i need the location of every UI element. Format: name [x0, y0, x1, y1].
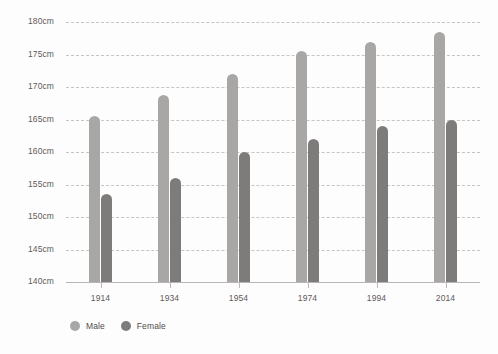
- bar-female-1954[interactable]: [239, 152, 250, 282]
- x-axis-tick-label: 1914: [91, 293, 110, 303]
- y-axis-tick-label: 140cm: [28, 276, 54, 286]
- y-axis-tick-label: 180cm: [28, 16, 54, 26]
- x-axis-tick-label: 2014: [436, 293, 455, 303]
- legend-circle-icon: [70, 321, 80, 331]
- bar-male-1934[interactable]: [158, 95, 169, 282]
- y-axis-tick-label: 165cm: [28, 114, 54, 124]
- plot-area: 180cm175cm170cm165cm160cm155cm150cm145cm…: [66, 22, 480, 282]
- x-axis-tick: [239, 282, 240, 288]
- bar-male-1994[interactable]: [365, 42, 376, 283]
- y-axis-tick-label: 150cm: [28, 211, 54, 221]
- bar-group: [273, 22, 342, 282]
- chart-legend: MaleFemale: [70, 321, 166, 331]
- bar-group: [411, 22, 480, 282]
- x-axis-tick-label: 1954: [229, 293, 248, 303]
- bar-female-1934[interactable]: [170, 178, 181, 282]
- bar-male-1954[interactable]: [227, 74, 238, 282]
- y-axis-tick-label: 145cm: [28, 244, 54, 254]
- height-trend-bar-chart: 180cm175cm170cm165cm160cm155cm150cm145cm…: [0, 0, 498, 354]
- y-axis-tick-label: 155cm: [28, 179, 54, 189]
- legend-label: Female: [137, 321, 166, 331]
- y-axis-tick-label: 170cm: [28, 81, 54, 91]
- x-axis-tick-label: 1934: [160, 293, 179, 303]
- x-axis-tick-label: 1994: [367, 293, 386, 303]
- legend-label: Male: [86, 321, 105, 331]
- bar-group: [135, 22, 204, 282]
- bar-female-2014[interactable]: [446, 120, 457, 283]
- bar-male-1914[interactable]: [89, 116, 100, 282]
- legend-item-male[interactable]: Male: [70, 321, 105, 331]
- legend-item-female[interactable]: Female: [121, 321, 166, 331]
- x-axis-tick: [101, 282, 102, 288]
- x-axis-tick: [377, 282, 378, 288]
- bar-group: [204, 22, 273, 282]
- x-axis-tick: [308, 282, 309, 288]
- x-axis-tick: [446, 282, 447, 288]
- x-axis-tick-label: 1974: [298, 293, 317, 303]
- legend-circle-icon: [121, 321, 131, 331]
- bar-male-2014[interactable]: [434, 32, 445, 282]
- bar-female-1994[interactable]: [377, 126, 388, 282]
- x-axis-tick: [170, 282, 171, 288]
- bar-female-1974[interactable]: [308, 139, 319, 282]
- bar-female-1914[interactable]: [101, 194, 112, 282]
- bar-male-1974[interactable]: [296, 51, 307, 282]
- bar-group: [342, 22, 411, 282]
- y-axis-tick-label: 175cm: [28, 49, 54, 59]
- bars-layer: [66, 22, 480, 282]
- x-axis-baseline: 140cm: [66, 282, 480, 283]
- y-axis-tick-label: 160cm: [28, 146, 54, 156]
- bar-group: [66, 22, 135, 282]
